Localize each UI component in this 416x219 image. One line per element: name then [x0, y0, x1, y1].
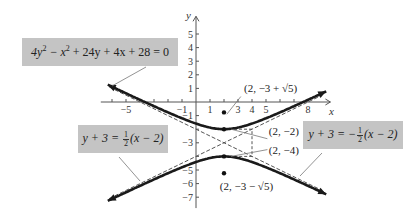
x-tick-label: 4 — [250, 104, 255, 115]
y-tick-label: 3 — [188, 56, 193, 67]
fraction-den: 2 — [123, 140, 129, 148]
focus-label-lower: (2, −3 − √5) — [220, 180, 274, 193]
vertex-point — [222, 154, 226, 158]
y-tick-label: −3 — [182, 137, 193, 148]
fraction: 12 — [123, 131, 129, 148]
fraction: 12 — [357, 127, 363, 144]
y-tick-label: −7 — [182, 192, 193, 203]
asym-rhs: (x − 2) — [364, 127, 397, 141]
y-tick-label: 1 — [188, 83, 193, 94]
y-axis-label: y — [185, 9, 191, 21]
asym-lhs: y + 3 = − — [308, 127, 356, 141]
eq-part: 4y — [31, 45, 42, 59]
x-axis-label: x — [328, 105, 334, 117]
vertex-label-lower: (2, −4) — [269, 144, 299, 157]
equation-text: 4y2 − x2 + 24y + 4x + 28 = 0 — [31, 44, 169, 60]
vertex-label-upper: (2, −2) — [269, 125, 299, 138]
equation-label-box: 4y2 − x2 + 24y + 4x + 28 = 0 — [22, 38, 178, 66]
fraction-den: 2 — [357, 136, 363, 144]
focus-point — [222, 171, 226, 175]
asym-lhs: y + 3 = — [83, 131, 123, 145]
y-tick-label: 4 — [188, 42, 193, 53]
x-tick-label: 1 — [208, 104, 213, 115]
x-tick-label: 8 — [306, 104, 311, 115]
asymptote-left-leader — [119, 157, 140, 181]
focus-label-upper: (2, −3 + √5) — [244, 82, 298, 95]
x-tick-label: −5 — [121, 104, 132, 115]
y-tick-label: 5 — [188, 29, 193, 40]
focus-point — [222, 110, 226, 114]
lower-branch — [108, 156, 326, 201]
asymptote-left-text: y + 3 = 12(x − 2) — [83, 131, 164, 148]
asymptote-right-text: y + 3 = −12(x − 2) — [308, 127, 397, 144]
vertex-leader — [231, 150, 267, 157]
eq-part: − x — [46, 45, 65, 59]
vertex-point — [222, 127, 226, 131]
y-tick-label: 2 — [188, 69, 193, 80]
eq-part: + 24y + 4x + 28 = 0 — [70, 45, 169, 59]
asymptote-right-label-box: y + 3 = −12(x − 2) — [303, 121, 403, 149]
asym-rhs: (x − 2) — [130, 131, 163, 145]
asymptote-right-leader — [300, 153, 322, 176]
x-tick-label: 3 — [236, 104, 241, 115]
equation-leader — [112, 67, 146, 86]
hyperbola-graph: xy −5−11345854321−1−3−5−6−7 (2, −3 + √5)… — [0, 0, 416, 219]
x-tick-label: 5 — [264, 104, 269, 115]
asymptote-left-label-box: y + 3 = 12(x − 2) — [78, 125, 168, 153]
y-tick-label: −6 — [182, 178, 193, 189]
